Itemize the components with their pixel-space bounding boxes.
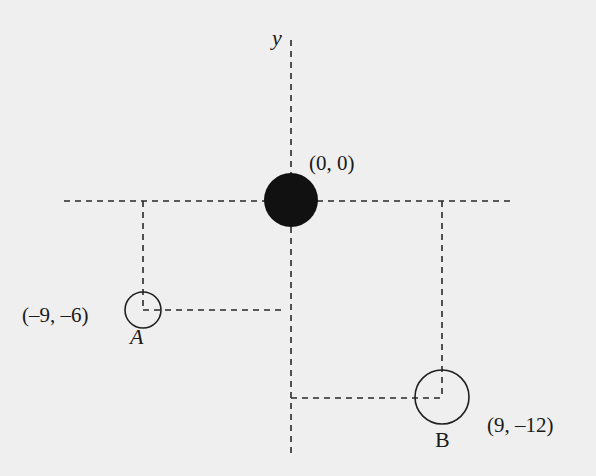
origin-coordinate-label: (0, 0) [309, 151, 355, 175]
y-axis-label: y [270, 25, 282, 50]
coordinate-diagram: y (0, 0) (–9, –6) A B (9, –12) [0, 0, 596, 476]
point-b-coordinate-label: (9, –12) [487, 413, 554, 437]
origin-solid-circle [264, 173, 318, 227]
point-a-name-label: A [128, 324, 144, 349]
point-b-name-label: B [435, 427, 450, 452]
point-a-coordinate-label: (–9, –6) [22, 303, 89, 327]
